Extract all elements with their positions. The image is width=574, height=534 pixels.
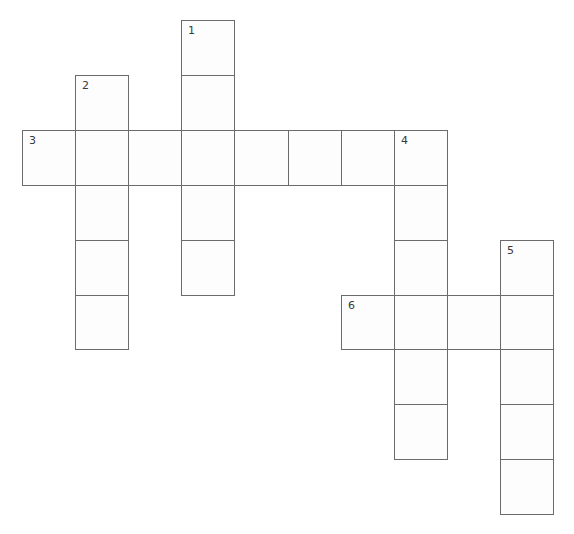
cell-letter-input[interactable] <box>342 131 394 185</box>
crossword-cell-r3-c3[interactable] <box>181 185 235 241</box>
crossword-cell-r5-c9[interactable] <box>500 295 554 350</box>
cell-letter-input[interactable] <box>501 405 553 459</box>
cell-letter-input[interactable] <box>395 350 447 404</box>
cell-letter-input[interactable] <box>182 186 234 240</box>
cell-letter-input[interactable] <box>342 296 394 349</box>
cell-letter-input[interactable] <box>76 296 128 349</box>
cell-letter-input[interactable] <box>501 350 553 404</box>
cell-letter-input[interactable] <box>182 76 234 130</box>
crossword-cell-r5-c6[interactable]: 6 <box>341 295 395 350</box>
crossword-cell-r3-c1[interactable] <box>75 185 129 241</box>
cell-letter-input[interactable] <box>76 241 128 295</box>
crossword-cell-r2-c3[interactable] <box>181 130 235 186</box>
cell-letter-input[interactable] <box>501 460 553 514</box>
cell-letter-input[interactable] <box>182 241 234 295</box>
crossword-cell-r5-c1[interactable] <box>75 295 129 350</box>
crossword-cell-r2-c1[interactable] <box>75 130 129 186</box>
crossword-cell-r2-c4[interactable] <box>234 130 289 186</box>
cell-letter-input[interactable] <box>23 131 75 185</box>
cell-letter-input[interactable] <box>129 131 181 185</box>
crossword-cell-r4-c7[interactable] <box>394 240 448 296</box>
cell-letter-input[interactable] <box>395 241 447 295</box>
cell-letter-input[interactable] <box>182 131 234 185</box>
cell-letter-input[interactable] <box>76 186 128 240</box>
crossword-cell-r8-c9[interactable] <box>500 459 554 515</box>
crossword-cell-r5-c7[interactable] <box>394 295 448 350</box>
cell-letter-input[interactable] <box>395 186 447 240</box>
crossword-cell-r2-c0[interactable]: 3 <box>22 130 76 186</box>
crossword-cell-r4-c1[interactable] <box>75 240 129 296</box>
cell-letter-input[interactable] <box>395 131 447 185</box>
cell-letter-input[interactable] <box>395 296 447 349</box>
crossword-cell-r2-c5[interactable] <box>288 130 342 186</box>
crossword-cell-r1-c3[interactable] <box>181 75 235 131</box>
crossword-grid: 1 2 3 4 <box>0 0 574 534</box>
cell-letter-input[interactable] <box>182 21 234 75</box>
crossword-cell-r2-c7[interactable]: 4 <box>394 130 448 186</box>
crossword-cell-r4-c3[interactable] <box>181 240 235 296</box>
cell-letter-input[interactable] <box>76 131 128 185</box>
cell-letter-input[interactable] <box>501 296 553 349</box>
crossword-cell-r2-c6[interactable] <box>341 130 395 186</box>
crossword-cell-r7-c7[interactable] <box>394 404 448 460</box>
cell-letter-input[interactable] <box>76 76 128 130</box>
crossword-cell-r0-c3[interactable]: 1 <box>181 20 235 76</box>
crossword-cell-r6-c9[interactable] <box>500 349 554 405</box>
crossword-cell-r4-c9[interactable]: 5 <box>500 240 554 296</box>
cell-letter-input[interactable] <box>289 131 341 185</box>
crossword-cell-r5-c8[interactable] <box>447 295 501 350</box>
crossword-cell-r7-c9[interactable] <box>500 404 554 460</box>
cell-letter-input[interactable] <box>235 131 288 185</box>
crossword-cell-r2-c2[interactable] <box>128 130 182 186</box>
crossword-cell-r1-c1[interactable]: 2 <box>75 75 129 131</box>
cell-letter-input[interactable] <box>448 296 500 349</box>
crossword-cell-r3-c7[interactable] <box>394 185 448 241</box>
crossword-cell-r6-c7[interactable] <box>394 349 448 405</box>
cell-letter-input[interactable] <box>395 405 447 459</box>
cell-letter-input[interactable] <box>501 241 553 295</box>
